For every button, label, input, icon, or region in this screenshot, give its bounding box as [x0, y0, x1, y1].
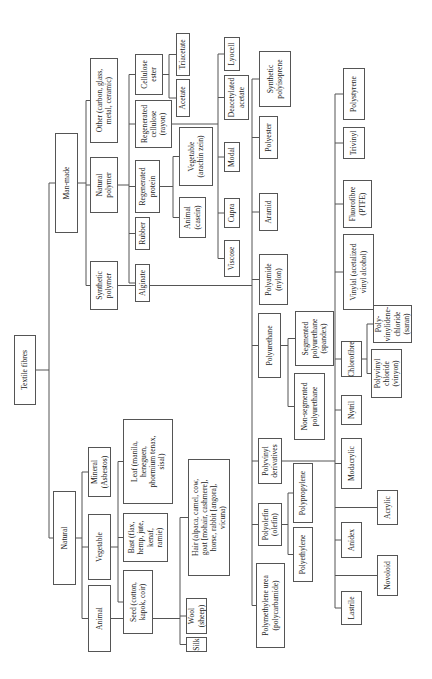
- node-cellulose-ester: Cellulose ester: [135, 54, 163, 95]
- node-rubber: Rubber: [135, 217, 150, 250]
- node-seed: Seed (cotton, kapok, coir): [123, 570, 153, 634]
- node-mineral: Mineral (Asbestos): [88, 447, 111, 497]
- node-chlorofibre: Chlorofibre: [341, 341, 362, 377]
- node-polyester: Polyester: [259, 116, 278, 159]
- node-polypropylene: Polypropylene: [293, 463, 313, 523]
- node-natural: Natural: [53, 491, 76, 585]
- node-polymethylene-urea: Polymethylene urea (polycarbamide): [256, 563, 285, 648]
- node-lastrile: Lastrile: [341, 591, 362, 625]
- node-polyvinyl-derivatives: Polyvinyl derivatives: [258, 438, 282, 484]
- node-aramid: Aramid: [259, 193, 278, 231]
- node-leaf: Leaf (manila, heneguen, phormium tenax, …: [123, 419, 173, 504]
- node-vegetable-zein: Vegetable (arachin zein): [179, 127, 213, 186]
- node-nytril: Nytril: [341, 395, 362, 425]
- node-man-made: Man-made: [55, 133, 78, 233]
- node-cupra: Cupra: [224, 198, 240, 228]
- node-other: Other (carbon, glass, metal, ceramic): [90, 58, 118, 143]
- node-anidex: Anidex: [341, 522, 362, 558]
- node-polyamide: Polyamide (nylon): [259, 254, 288, 305]
- node-novoloid: Novoloid: [377, 555, 398, 596]
- node-animal-casein: Animal (casein): [179, 197, 206, 238]
- node-polyethylene: Polyethylene: [293, 527, 313, 582]
- node-alginate: Alginate: [135, 264, 150, 302]
- node-animal: Animal: [88, 585, 111, 652]
- node-vinylal: Vinylal (acetalized vinyl alcohol): [343, 234, 374, 310]
- node-lyocell: Lyocell: [224, 37, 240, 71]
- node-synthetic-polyisoprene: Synthetic polyisoprene: [259, 51, 291, 107]
- node-polyurethane: Polyurethane: [258, 313, 281, 378]
- node-segmented-pu: Segmented polyurethane (spandex): [295, 311, 334, 366]
- node-root: Textile fibres: [14, 335, 36, 405]
- node-bast: Bast (flax, hemp, jute, kenaf, ramie): [123, 513, 168, 562]
- node-silk: Silk: [186, 637, 207, 652]
- node-polystyrene: Polystyrene: [343, 68, 365, 120]
- node-synthetic-polymer: Synthetic polymer: [90, 261, 118, 310]
- node-hair: Hair (alpaca, camel, cow, goat [mohair, …: [188, 459, 230, 576]
- node-viscose: Viscose: [224, 240, 240, 277]
- node-pvc: Polyvinyl chloride (vinyon): [371, 349, 402, 398]
- node-trivinyl: Trivinyl: [343, 127, 365, 159]
- node-wool: Wool (sheep): [186, 598, 207, 634]
- node-fluorofibre: Fluorofibre (PTFE): [343, 180, 372, 228]
- node-pvdc: Poly- vinylidene- chloride (saran): [373, 305, 412, 343]
- node-natural-polymer: Natural polymer: [90, 157, 118, 213]
- node-modal: Modal: [224, 142, 240, 172]
- node-polyolefin: Polyolefin (olefin): [258, 503, 282, 546]
- node-regenerated-protein: Regenerated protein: [135, 160, 160, 213]
- node-deacetylated-acetate: Deacetylated acetate: [224, 75, 249, 120]
- node-acrylic: Acrylic: [377, 490, 398, 525]
- node-triacetate: Triacetate: [176, 33, 190, 76]
- node-modacrylic: Modacrylic: [341, 438, 362, 489]
- node-non-segmented-pu: Non-segmented polyurethane: [294, 373, 325, 440]
- node-regenerated-cellulose: Regenerated cellulose (rayon): [135, 100, 172, 148]
- node-acetate: Acetate: [176, 79, 190, 117]
- textile-fibres-tree-diagram: Textile fibresMan-madeNaturalAnimalVeget…: [0, 0, 432, 679]
- node-vegetable: Vegetable: [88, 514, 111, 580]
